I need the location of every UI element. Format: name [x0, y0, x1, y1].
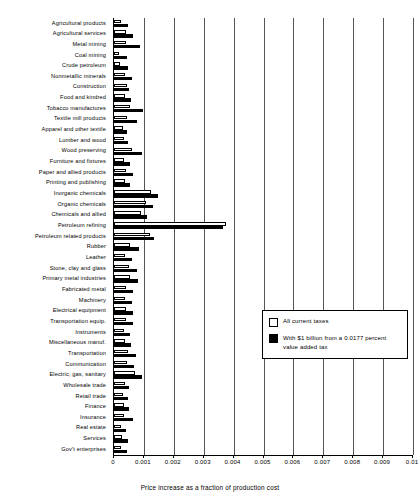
category-label: Communication: [0, 359, 110, 370]
bar-all-current-taxes: [114, 403, 124, 406]
bar-value-added-tax: [114, 333, 130, 336]
category-label: Electrical equipment: [0, 306, 110, 317]
bar-value-added-tax: [114, 120, 137, 123]
category-label: Finance: [0, 402, 110, 413]
bar-value-added-tax: [114, 77, 132, 80]
bar-all-current-taxes: [114, 179, 125, 182]
bar-row: [114, 242, 413, 253]
x-tick-label: 0.001: [135, 459, 151, 465]
bar-all-current-taxes: [114, 52, 119, 55]
chart-figure: Agricultural productsAgricultural servic…: [0, 0, 420, 504]
bar-all-current-taxes: [114, 62, 120, 65]
bar-all-current-taxes: [114, 414, 124, 417]
bar-value-added-tax: [114, 45, 140, 48]
bar-all-current-taxes: [114, 94, 125, 97]
category-label: Food and kindred: [0, 93, 110, 104]
bar-all-current-taxes: [114, 265, 129, 268]
bar-value-added-tax: [114, 130, 127, 133]
category-label: Agricultural products: [0, 18, 110, 29]
x-tick-mark: [412, 455, 413, 458]
category-label: Insurance: [0, 412, 110, 423]
x-tick-label: 0.006: [284, 459, 300, 465]
bar-all-current-taxes: [114, 84, 127, 87]
bar-value-added-tax: [114, 279, 138, 282]
bar-all-current-taxes: [114, 20, 121, 23]
bar-all-current-taxes: [114, 158, 124, 161]
bar-rows: [114, 18, 413, 455]
x-tick-mark: [143, 455, 144, 458]
bar-value-added-tax: [114, 98, 131, 101]
bar-value-added-tax: [114, 247, 139, 250]
category-label: Services: [0, 434, 110, 445]
bar-all-current-taxes: [114, 361, 127, 364]
bar-row: [114, 444, 413, 455]
category-label: Tobacco manufactures: [0, 103, 110, 114]
x-tick-label: 0.008: [344, 459, 360, 465]
bar-all-current-taxes: [114, 148, 132, 151]
bar-value-added-tax: [114, 439, 128, 442]
bar-value-added-tax: [114, 66, 128, 69]
category-label: Furniture and fixtures: [0, 157, 110, 168]
bar-value-added-tax: [114, 162, 130, 165]
bar-value-added-tax: [114, 141, 128, 144]
bar-row: [114, 423, 413, 434]
bar-value-added-tax: [114, 205, 153, 208]
bar-all-current-taxes: [114, 297, 125, 300]
legend-swatch-white: [269, 318, 278, 327]
category-label: Transportation equip.: [0, 316, 110, 327]
plot-area: [113, 18, 413, 456]
bar-row: [114, 391, 413, 402]
bar-all-current-taxes: [114, 329, 124, 332]
bar-value-added-tax: [114, 365, 134, 368]
bar-all-current-taxes: [114, 371, 135, 374]
bar-all-current-taxes: [114, 126, 123, 129]
x-tick-mark: [382, 455, 383, 458]
category-label: Nonmetallic minerals: [0, 71, 110, 82]
category-label: Inorganic chemicals: [0, 189, 110, 200]
bar-row: [114, 252, 413, 263]
bar-row: [114, 189, 413, 200]
category-label: Leather: [0, 252, 110, 263]
category-label: Coal mining: [0, 50, 110, 61]
bar-all-current-taxes: [114, 190, 151, 193]
bar-row: [114, 370, 413, 381]
bar-value-added-tax: [114, 269, 137, 272]
bar-row: [114, 263, 413, 274]
bar-value-added-tax: [114, 375, 142, 378]
category-axis-labels: Agricultural productsAgricultural servic…: [0, 18, 110, 455]
bar-all-current-taxes: [114, 201, 146, 204]
category-label: Wood preserving: [0, 146, 110, 157]
bar-value-added-tax: [114, 258, 132, 261]
bar-row: [114, 125, 413, 136]
bar-row: [114, 210, 413, 221]
category-label: Metal mining: [0, 39, 110, 50]
category-label: Lumber and wood: [0, 135, 110, 146]
chart-legend: All current taxes With $1 billion from a…: [262, 310, 408, 359]
legend-entry-all-current-taxes: All current taxes: [269, 317, 402, 327]
category-label: Agricultural services: [0, 29, 110, 40]
bar-row: [114, 359, 413, 370]
x-axis-ticks: 00.0010.0020.0030.0040.0050.0060.0070.00…: [113, 455, 412, 475]
bar-value-added-tax: [114, 34, 133, 37]
category-label: Primary metal industries: [0, 274, 110, 285]
bar-all-current-taxes: [114, 350, 128, 353]
x-tick-label: 0.01: [406, 459, 418, 465]
category-label: Printing and publishing: [0, 178, 110, 189]
bar-all-current-taxes: [114, 169, 126, 172]
bar-row: [114, 50, 413, 61]
legend-entry-value-added-tax: With $1 billion from a 0.0177 percent va…: [269, 334, 402, 352]
category-label: Petroleum refining: [0, 220, 110, 231]
bar-row: [114, 29, 413, 40]
bar-value-added-tax: [114, 429, 126, 432]
bar-all-current-taxes: [114, 137, 124, 140]
bar-row: [114, 284, 413, 295]
bar-all-current-taxes: [114, 105, 130, 108]
category-label: Instruments: [0, 327, 110, 338]
legend-label-all-current-taxes: All current taxes: [283, 317, 329, 326]
bar-value-added-tax: [114, 109, 143, 112]
category-label: Apparel and other textile: [0, 125, 110, 136]
category-label: Crude petroleum: [0, 61, 110, 72]
bar-value-added-tax: [114, 56, 127, 59]
x-tick-mark: [352, 455, 353, 458]
bar-all-current-taxes: [114, 254, 125, 257]
